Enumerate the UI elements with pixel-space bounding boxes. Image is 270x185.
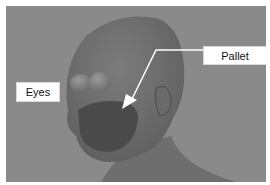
- label-pallet: Pallet: [203, 46, 266, 65]
- eye-left-shape: [70, 74, 92, 92]
- label-eyes-text: Eyes: [26, 86, 50, 98]
- eye-right-shape: [89, 72, 111, 92]
- figure-frame: Eyes Pallet: [6, 6, 266, 182]
- label-eyes: Eyes: [16, 82, 60, 102]
- label-pallet-text: Pallet: [221, 50, 249, 62]
